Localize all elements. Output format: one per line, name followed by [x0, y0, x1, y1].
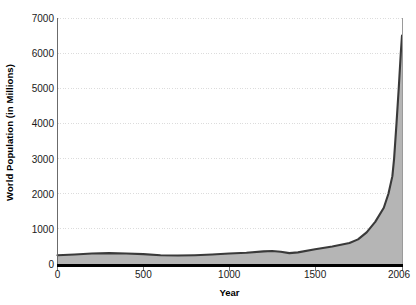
- gridlines-group: [58, 18, 403, 229]
- world-population-area-chart: World Population (in Millions) 010002000…: [0, 0, 416, 305]
- tick-marks-group: [58, 267, 403, 271]
- x-axis-title: Year: [57, 287, 402, 298]
- population-area-fill: [58, 36, 403, 264]
- population-line: [58, 36, 403, 256]
- plot-area: [0, 0, 416, 305]
- area-series-group: [58, 36, 403, 264]
